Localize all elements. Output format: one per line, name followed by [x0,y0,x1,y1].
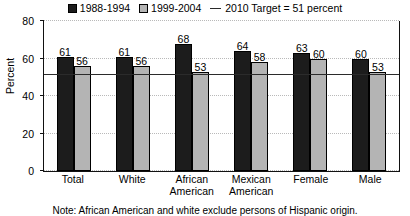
legend-swatch-icon-series-a [68,4,77,13]
bar: 68 [175,44,192,172]
chart-legend: 1988-1994 1999-2004 2010 Target = 51 per… [0,1,410,15]
bar-group: 6053 [340,21,399,171]
y-tick-label-20: 20 [22,129,34,139]
bar: 58 [251,62,268,171]
y-tick-label-40: 40 [22,91,34,101]
x-axis-label-line: Mexican [222,174,282,186]
x-axis-label-line: Female [281,174,341,186]
bar-group: 6156 [103,21,162,171]
x-axis-label-female: Female [281,174,341,197]
bar: 56 [133,66,150,171]
bar-value-label: 61 [59,47,71,58]
x-axis-label-line: American [222,186,282,198]
x-axis-label-line: Male [341,174,401,186]
x-axis-label-line: White [103,174,163,186]
bar: 63 [293,53,310,171]
bar: 53 [192,72,209,171]
legend-item-1999-2004: 1999-2004 [139,3,201,14]
x-axis-label-white: White [103,174,163,197]
x-axis-label-mexican-american: MexicanAmerican [222,174,282,197]
chart-note: Note: African American and white exclude… [0,205,410,216]
bar: 56 [74,66,91,171]
bar-value-label: 56 [76,56,88,67]
legend-item-target-line: 2010 Target = 51 percent [210,3,342,14]
target-reference-line [44,74,399,75]
x-axis-label-line: American [162,186,222,198]
bar-value-label: 63 [296,43,308,54]
x-axis-label-line: African [162,174,222,186]
bar-value-label: 53 [372,62,384,73]
bar-value-label: 60 [313,49,325,60]
legend-label-series-a: 1988-1994 [80,3,130,14]
plot-area: 020406080 615661566853645863606053 [43,21,400,172]
x-axis-label-line: Total [43,174,103,186]
bar-value-label: 64 [237,41,249,52]
bar: 64 [234,51,251,171]
legend-swatch-icon-series-b [139,4,148,13]
bar: 60 [310,59,327,172]
bar-groups: 615661566853645863606053 [44,21,399,171]
bar-value-label: 68 [178,34,190,45]
x-axis-label-male: Male [341,174,401,197]
bar-group: 6156 [44,21,103,171]
bar-value-label: 53 [195,62,207,73]
y-tick-label-80: 80 [22,16,34,26]
legend-item-1988-1994: 1988-1994 [68,3,130,14]
legend-line-icon-target [210,8,221,9]
legend-label-target: 2010 Target = 51 percent [225,3,342,14]
legend-label-series-b: 1999-2004 [151,3,201,14]
bar-value-label: 60 [355,49,367,60]
y-axis-title: Percent [4,46,16,106]
bar-value-label: 56 [135,56,147,67]
x-axis-label-african-american: AfricanAmerican [162,174,222,197]
bar-value-label: 58 [254,52,266,63]
y-tick-label-60: 60 [22,54,34,64]
x-axis-labels: TotalWhiteAfricanAmericanMexicanAmerican… [43,174,400,197]
bar-group: 6853 [162,21,221,171]
bar: 60 [352,59,369,172]
bar-group: 6458 [222,21,281,171]
bar-group: 6360 [281,21,340,171]
bar-value-label: 61 [118,47,130,58]
x-axis-label-total: Total [43,174,103,197]
y-tick-label-0: 0 [28,166,34,176]
bar: 53 [369,72,386,171]
